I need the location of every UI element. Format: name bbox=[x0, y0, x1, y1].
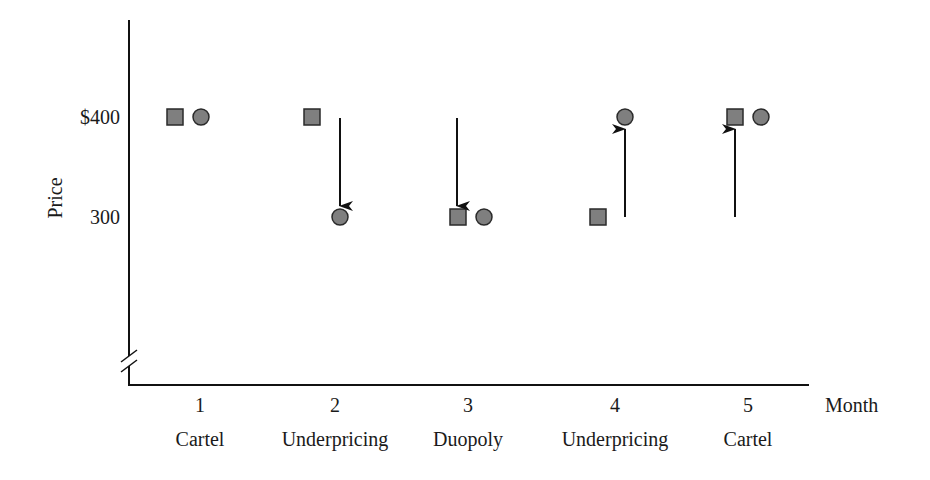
axes bbox=[121, 20, 809, 386]
y-axis-label: Price bbox=[44, 177, 66, 218]
square-marker-month-3 bbox=[450, 209, 466, 225]
square-marker-month-4 bbox=[590, 209, 606, 225]
series-square bbox=[167, 109, 743, 225]
circle-marker-month-4 bbox=[617, 109, 633, 125]
x-tick-month-1: 1 bbox=[195, 394, 205, 416]
phase-label-2: Underpricing bbox=[282, 428, 389, 451]
series-circle bbox=[193, 109, 769, 225]
circle-marker-month-5 bbox=[753, 109, 769, 125]
phase-label-4: Underpricing bbox=[562, 428, 669, 451]
x-axis-label: Month bbox=[825, 394, 878, 416]
y-tick-400: $400 bbox=[80, 106, 120, 128]
phase-label-1: Cartel bbox=[176, 428, 225, 450]
square-marker-month-1 bbox=[167, 109, 183, 125]
phase-labels: Cartel Underpricing Duopoly Underpricing… bbox=[176, 428, 773, 451]
square-marker-month-5 bbox=[727, 109, 743, 125]
price-war-chart: Price $400 300 Month 1 2 3 4 5 Cartel Un… bbox=[0, 0, 930, 480]
y-tick-300: 300 bbox=[90, 206, 120, 228]
price-change-arrows bbox=[340, 118, 735, 217]
x-tick-labels: 1 2 3 4 5 bbox=[195, 394, 753, 416]
x-tick-month-2: 2 bbox=[330, 394, 340, 416]
square-marker-month-2 bbox=[304, 109, 320, 125]
circle-marker-month-3 bbox=[476, 209, 492, 225]
x-tick-month-4: 4 bbox=[610, 394, 620, 416]
phase-label-5: Cartel bbox=[724, 428, 773, 450]
x-tick-month-5: 5 bbox=[743, 394, 753, 416]
x-tick-month-3: 3 bbox=[463, 394, 473, 416]
circle-marker-month-2 bbox=[332, 209, 348, 225]
phase-label-3: Duopoly bbox=[433, 428, 503, 451]
circle-marker-month-1 bbox=[193, 109, 209, 125]
